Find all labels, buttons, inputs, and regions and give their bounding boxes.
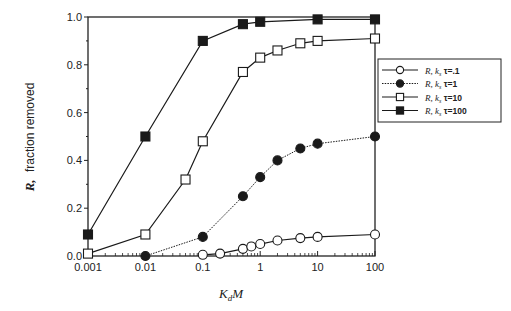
x-tick-label: 0.01 [135, 261, 156, 273]
series-line [145, 137, 375, 257]
legend-label: R, ks τ=1 [424, 79, 457, 90]
series-line [88, 19, 375, 234]
x-tick-label: 1 [257, 261, 263, 273]
data-point [296, 39, 305, 48]
data-point [256, 53, 265, 62]
data-point [141, 252, 150, 261]
data-point [141, 132, 150, 141]
x-axis-title-m: M [231, 286, 244, 301]
data-point [256, 173, 265, 182]
data-point [84, 230, 93, 239]
x-axis-title: KdM [218, 286, 244, 303]
data-point [247, 242, 256, 251]
data-point [198, 137, 207, 146]
series-layer [84, 15, 380, 261]
data-point [396, 80, 403, 87]
x-tick-label: 0.1 [195, 261, 210, 273]
data-point [313, 139, 322, 148]
data-point [256, 17, 265, 26]
legend-label: R, ks τ=10 [424, 93, 462, 104]
y-axis-title-text: fraction removed [23, 83, 37, 172]
x-tick-label: 0.001 [74, 261, 102, 273]
plot-area-border [88, 17, 375, 256]
y-tick-label: 0.4 [67, 154, 82, 166]
data-point [296, 144, 305, 153]
data-point [238, 192, 247, 201]
data-point [371, 230, 380, 239]
axis-ticks: 0.00.20.40.60.81.00.0010.010.1110100 [67, 11, 384, 273]
data-point [371, 15, 380, 24]
data-point [84, 249, 93, 258]
data-point [238, 67, 247, 76]
y-tick-label: 0.8 [67, 59, 82, 71]
x-tick-label: 10 [311, 261, 323, 273]
x-tick-label: 100 [366, 261, 384, 273]
data-point [141, 230, 150, 239]
series-3 [84, 34, 380, 258]
legend: R, ks τ=.1R, ks τ=1R, ks τ=10R, ks τ=100 [378, 59, 501, 122]
series-line [88, 39, 375, 254]
y-axis-title-var: R, [22, 179, 37, 192]
legend-label: R, ks τ=.1 [424, 66, 460, 77]
data-point [256, 240, 265, 249]
series-4 [84, 15, 380, 239]
data-point [371, 132, 380, 141]
y-tick-label: 0.2 [67, 202, 82, 214]
data-point [198, 250, 207, 259]
data-point [273, 46, 282, 55]
data-point [198, 232, 207, 241]
data-point [273, 236, 282, 245]
series-line [203, 235, 375, 255]
data-point [396, 93, 403, 100]
y-axis-title: R, fraction removed [22, 83, 37, 193]
data-point [238, 20, 247, 29]
y-tick-label: 1.0 [67, 11, 82, 23]
legend-label: R, ks τ=100 [424, 106, 467, 117]
data-point [313, 232, 322, 241]
data-point [371, 34, 380, 43]
line-chart: 0.00.20.40.60.81.00.0010.010.1110100 R, … [0, 0, 511, 311]
data-point [313, 36, 322, 45]
data-point [238, 244, 247, 253]
data-point [396, 107, 403, 114]
data-point [313, 15, 322, 24]
data-point [216, 249, 225, 258]
y-tick-label: 0.6 [67, 107, 82, 119]
data-point [181, 175, 190, 184]
plot-frame [88, 17, 375, 256]
data-point [198, 36, 207, 45]
data-point [273, 156, 282, 165]
data-point [396, 66, 403, 73]
data-point [296, 234, 305, 243]
